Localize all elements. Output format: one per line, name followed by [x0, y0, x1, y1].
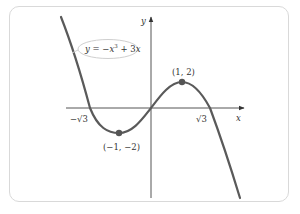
function-graph: y = −x3 + 3x y x −√3 √3 (−1, −2) (1, 2) — [0, 0, 300, 214]
equation-label: y = −x3 + 3x — [84, 43, 141, 54]
max-point — [179, 79, 185, 85]
y-axis-label: y — [140, 16, 146, 26]
min-point — [116, 130, 122, 136]
min-point-label: (−1, −2) — [103, 142, 140, 152]
neg-root-label: −√3 — [70, 114, 88, 124]
max-point-label: (1, 2) — [172, 67, 195, 77]
x-axis-label: x — [236, 113, 241, 123]
pos-root-label: √3 — [196, 114, 207, 124]
